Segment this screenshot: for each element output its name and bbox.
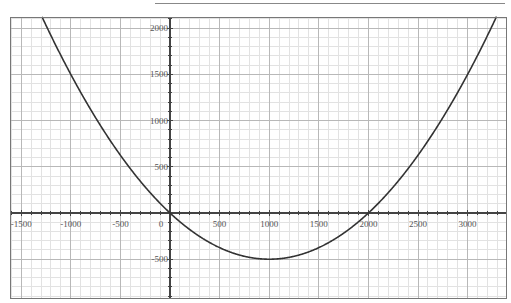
x-tick-label: 1500: [310, 219, 329, 229]
x-tick-label: -500: [112, 219, 129, 229]
x-tick-label: -1500: [11, 219, 32, 229]
x-tick-label: 1000: [260, 219, 279, 229]
y-tick-label: 1000: [150, 116, 169, 126]
y-tick-label: 500: [155, 162, 169, 172]
y-tick-label: 2000: [150, 23, 169, 33]
function-plot: -1500-1000-500050010001500200025003000-5…: [0, 0, 511, 303]
y-tick-label: -500: [152, 254, 169, 264]
x-tick-label: 2500: [409, 219, 428, 229]
minor-grid: [10, 17, 506, 298]
x-tick-label: 0: [159, 219, 164, 229]
x-tick-label: -1000: [60, 219, 81, 229]
x-tick-label: 500: [213, 219, 227, 229]
y-tick-label: 1500: [150, 69, 169, 79]
x-tick-label: 2000: [359, 219, 378, 229]
x-tick-label: 3000: [459, 219, 478, 229]
